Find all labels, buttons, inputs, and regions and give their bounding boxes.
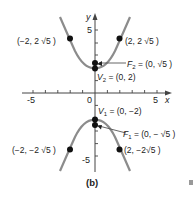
point-neg2-neg2root5 — [67, 147, 73, 153]
point-v2 — [92, 66, 98, 72]
label-f2: F2 = (0, √5 ) — [127, 59, 172, 70]
x-tick-label-5: 5 — [153, 95, 158, 105]
y-tick-label-neg5: -5 — [82, 155, 90, 165]
x-axis: -5 0 5 x — [22, 90, 172, 105]
corner-marker — [189, 180, 193, 185]
y-axis: y 5 -5 — [82, 12, 98, 172]
label-v2: V2 = (0, 2) — [97, 72, 136, 83]
y-axis-label: y — [85, 12, 91, 22]
point-2-neg2root5 — [117, 147, 123, 153]
point-f1 — [92, 122, 98, 128]
hyperbola-figure: -5 0 5 x y 5 -5 — [0, 0, 194, 199]
x-axis-label: x — [164, 95, 170, 105]
label-neg2-neg2root5: (−2, −2 √5 ) — [12, 145, 56, 155]
figure-caption: (b) — [86, 177, 98, 188]
y-tick-label-5: 5 — [87, 25, 92, 35]
point-f2 — [92, 60, 98, 66]
label-neg2-2root5: (−2, 2 √5 ) — [17, 36, 56, 46]
x-tick-label-0: 0 — [87, 95, 92, 105]
point-v1 — [92, 117, 98, 123]
label-2-neg2root5: (2, −2√5 ) — [124, 145, 161, 155]
label-f1: F1 = (0, − √5 ) — [123, 129, 176, 140]
label-2-2root5: (2, 2 √5 ) — [125, 36, 159, 46]
x-tick-label-neg5: -5 — [27, 95, 35, 105]
point-2-2root5 — [117, 36, 123, 42]
label-v1: V1 = (0, −2) — [98, 106, 142, 117]
point-neg2-2root5 — [67, 36, 73, 42]
